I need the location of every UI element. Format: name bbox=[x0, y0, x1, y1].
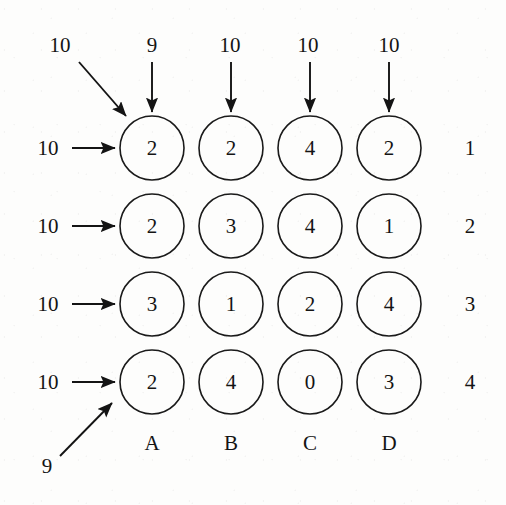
node-value-A2: 2 bbox=[132, 216, 172, 237]
column-label-A: A bbox=[132, 433, 172, 454]
diagram-canvas: 2 2 4 2 2 3 4 1 3 1 2 4 2 4 0 3 10 9 10 … bbox=[0, 0, 506, 505]
node-value-D1: 2 bbox=[369, 138, 409, 159]
node-value-C4: 0 bbox=[290, 372, 330, 393]
arrow-top-diagonal-A1 bbox=[79, 62, 126, 116]
flow-label-top-A: 9 bbox=[132, 35, 172, 56]
node-value-B3: 1 bbox=[211, 294, 251, 315]
row-label-4: 4 bbox=[450, 372, 490, 393]
column-label-D: D bbox=[369, 433, 409, 454]
node-value-A3: 3 bbox=[132, 294, 172, 315]
row-label-1: 1 bbox=[450, 138, 490, 159]
row-label-3: 3 bbox=[450, 294, 490, 315]
node-value-C2: 4 bbox=[290, 216, 330, 237]
node-value-D3: 4 bbox=[369, 294, 409, 315]
column-label-B: B bbox=[211, 433, 251, 454]
flow-label-top-C: 10 bbox=[288, 35, 328, 56]
row-label-2: 2 bbox=[450, 216, 490, 237]
node-value-B1: 2 bbox=[211, 138, 251, 159]
node-value-B4: 4 bbox=[211, 372, 251, 393]
diagram-vector-layer bbox=[0, 0, 506, 505]
arrow-bottom-diagonal-A4 bbox=[60, 403, 112, 456]
column-label-C: C bbox=[290, 433, 330, 454]
flow-label-top-D: 10 bbox=[369, 35, 409, 56]
node-value-A1: 2 bbox=[132, 138, 172, 159]
flow-label-left-row3: 10 bbox=[28, 294, 68, 315]
node-value-B2: 3 bbox=[211, 216, 251, 237]
flow-label-top-diagonal: 10 bbox=[40, 35, 80, 56]
node-value-A4: 2 bbox=[132, 372, 172, 393]
flow-label-left-row2: 10 bbox=[28, 216, 68, 237]
node-value-D2: 1 bbox=[369, 216, 409, 237]
node-value-C3: 2 bbox=[290, 294, 330, 315]
flow-label-left-row4: 10 bbox=[28, 372, 68, 393]
flow-label-top-B: 10 bbox=[210, 35, 250, 56]
flow-label-left-row1: 10 bbox=[28, 138, 68, 159]
node-value-D4: 3 bbox=[369, 372, 409, 393]
flow-label-bottom-diagonal: 9 bbox=[27, 456, 67, 477]
node-value-C1: 4 bbox=[290, 138, 330, 159]
